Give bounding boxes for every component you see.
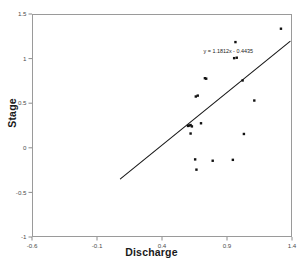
x-axis-title: Discharge bbox=[0, 246, 303, 258]
chart-figure: -0.6-0.10.40.91.4 -1-0.500.511.5 y = 1.1… bbox=[0, 0, 303, 265]
y-tick-label: -0.5 bbox=[16, 189, 27, 196]
y-tick-label: 1.5 bbox=[18, 10, 27, 17]
plot-area-frame bbox=[32, 14, 292, 237]
y-tick-label: 1 bbox=[23, 55, 27, 62]
y-axis-title: Stage bbox=[6, 98, 18, 128]
y-tick-label: -1 bbox=[21, 233, 27, 240]
x-axis-ticks bbox=[32, 237, 292, 241]
y-tick-label: 0 bbox=[23, 144, 27, 151]
y-axis-title-wrapper: Stage bbox=[2, 58, 20, 168]
